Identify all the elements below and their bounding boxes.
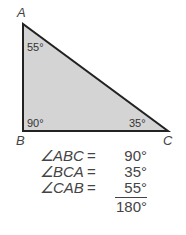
vertex-label-a: A: [17, 5, 26, 20]
equals-sign: =: [87, 179, 96, 196]
vertex-label-b: B: [16, 133, 25, 148]
angle-name: ∠CAB: [40, 179, 84, 197]
equals-sign: =: [87, 147, 96, 164]
equals-sign: =: [87, 163, 96, 180]
triangle-abc: [23, 24, 168, 131]
angle-value: 90°: [124, 147, 147, 164]
sum-total: 180°: [116, 198, 147, 215]
vertex-label-c: C: [163, 133, 172, 148]
angle-label-b: 90°: [27, 117, 44, 129]
angle-label-a: 55°: [27, 41, 44, 53]
angle-label-c: 35°: [129, 117, 146, 129]
angle-value: 35°: [124, 163, 147, 180]
angle-value: 55°: [124, 179, 147, 196]
